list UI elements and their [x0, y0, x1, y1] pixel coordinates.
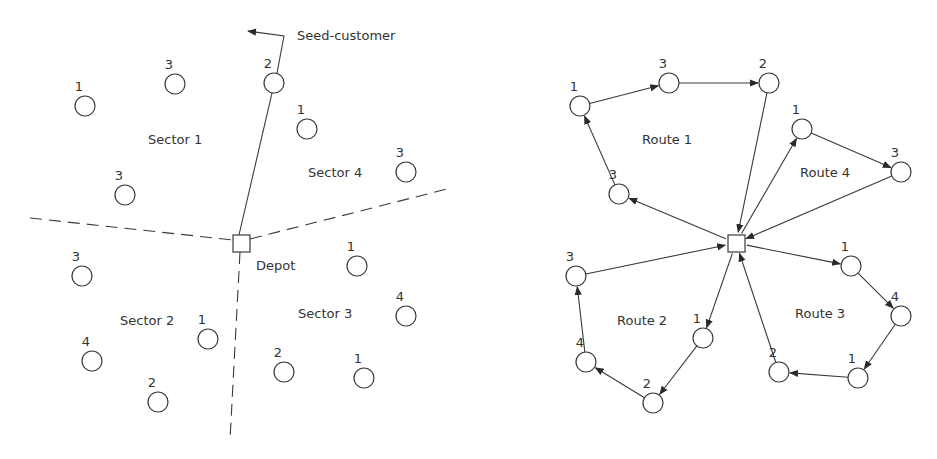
route-3-customer: 1: [841, 239, 861, 276]
demand-label: 1: [570, 79, 578, 94]
customer-node: 3: [72, 249, 92, 286]
customer-circle: [396, 306, 416, 326]
route-3-edge: [790, 373, 848, 377]
customer-circle: [297, 119, 317, 139]
sector-4-label: Sector 4: [308, 165, 362, 180]
route-2-customer: 4: [576, 335, 596, 372]
route-3-label: Route 3: [795, 306, 845, 321]
demand-label: 2: [759, 56, 767, 71]
demand-label: 1: [354, 351, 362, 366]
customer-circle: [891, 306, 911, 326]
demand-label: 3: [891, 145, 899, 160]
demand-label: 3: [396, 145, 404, 160]
route-1-customer: 1: [570, 79, 590, 116]
demand-label: 2: [264, 56, 272, 71]
demand-label: 4: [82, 334, 90, 349]
demand-label: 2: [643, 376, 651, 391]
route-1-edge: [629, 198, 726, 239]
customer-circle: [115, 185, 135, 205]
customer-circle: [75, 96, 95, 116]
customer-circle: [148, 392, 168, 412]
demand-label: 1: [198, 312, 206, 327]
left-sector-diagram: 13321334211421 Depot Seed-customer Secto…: [30, 28, 447, 440]
route-3-customer: 1: [848, 351, 868, 388]
customer-circle: [82, 351, 102, 371]
demand-label: 1: [848, 351, 856, 366]
route-4-edge: [811, 133, 891, 168]
customer-node: 3: [115, 168, 135, 205]
customer-circle: [347, 256, 367, 276]
demand-label: 1: [841, 239, 849, 254]
sector-1-label: Sector 1: [148, 132, 202, 147]
customer-circle: [570, 96, 590, 116]
customer-circle: [566, 266, 586, 286]
customer-node: 1: [198, 312, 218, 349]
demand-label: 4: [576, 335, 584, 350]
customer-circle: [848, 368, 868, 388]
customer-node: 2: [148, 375, 168, 412]
left-customers: 13321334211421: [72, 56, 416, 412]
customer-node: 3: [165, 57, 185, 94]
route-4-edge: [746, 176, 892, 239]
demand-label: 4: [891, 289, 899, 304]
customer-circle: [792, 119, 812, 139]
route-1-edge: [590, 86, 659, 104]
route-2-label: Route 2: [617, 313, 667, 328]
demand-label: 3: [609, 167, 617, 182]
sector-3-label: Sector 3: [298, 306, 352, 321]
route-4-label: Route 4: [800, 165, 850, 180]
route-3-customer: 2: [769, 345, 789, 382]
depot-label: Depot: [256, 258, 295, 273]
demand-label: 3: [72, 249, 80, 264]
route-4-customer: 3: [891, 145, 911, 182]
customer-node: 1: [297, 102, 317, 139]
customer-node: 3: [396, 145, 416, 182]
demand-label: 1: [792, 102, 800, 117]
sector-boundary-west: [30, 218, 233, 240]
demand-label: 4: [396, 289, 404, 304]
demand-label: 1: [693, 311, 701, 326]
left-depot: [233, 235, 250, 252]
customer-circle: [354, 368, 374, 388]
customer-circle: [72, 266, 92, 286]
customer-node: 1: [354, 351, 374, 388]
route-1-edge: [738, 93, 767, 232]
sector-boundary-east: [250, 189, 447, 239]
sector-2-label: Sector 2: [120, 313, 174, 328]
customer-node: 4: [396, 289, 416, 326]
customer-node: 2: [274, 345, 294, 382]
route-3-customer: 4: [891, 289, 911, 326]
route-1-customer: 2: [759, 56, 779, 93]
customer-circle: [396, 162, 416, 182]
customer-circle: [165, 74, 185, 94]
seed-customer-label: Seed-customer: [297, 28, 396, 43]
right-route-diagram: 31321243141213 Route 1 Route 2 Route 3 R…: [566, 56, 911, 413]
sweep-ray: [239, 93, 272, 235]
route-1-label: Route 1: [642, 132, 692, 147]
route-3-edge: [747, 245, 840, 264]
customer-node: 4: [82, 334, 102, 371]
right-depot: [728, 235, 745, 252]
demand-label: 1: [347, 239, 355, 254]
route-2-customer: 2: [643, 376, 663, 413]
customer-circle: [841, 256, 861, 276]
demand-label: 3: [165, 57, 173, 72]
demand-label: 3: [566, 249, 574, 264]
route-3-edge: [858, 273, 893, 308]
customer-circle: [576, 352, 596, 372]
customer-circle: [609, 184, 629, 204]
demand-label: 3: [115, 168, 123, 183]
customer-circle: [264, 73, 284, 93]
customer-circle: [274, 362, 294, 382]
demand-label: 3: [659, 56, 667, 71]
customer-circle: [891, 162, 911, 182]
sweep-algorithm-diagram: 13321334211421 Depot Seed-customer Secto…: [0, 0, 937, 459]
customer-circle: [693, 328, 713, 348]
demand-label: 2: [274, 345, 282, 360]
customer-node: 1: [75, 79, 95, 116]
route-4-customer: 1: [792, 102, 812, 139]
customer-node: 1: [347, 239, 367, 276]
route-1-customer: 3: [609, 167, 629, 204]
seed-customer-node: 2: [264, 56, 284, 93]
route-2-edge: [586, 245, 725, 274]
